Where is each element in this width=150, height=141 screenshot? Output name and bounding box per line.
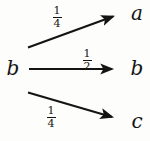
arrow-b-to-a	[28, 17, 113, 48]
target-node-label-c: c	[127, 111, 147, 131]
transition-diagram-figure: b a b c 1 4 1 2 1 4	[0, 0, 150, 141]
target-node-label-a: a	[127, 3, 147, 23]
transition-weight-c: 1 4	[38, 105, 64, 129]
fraction-denominator: 2	[82, 61, 93, 72]
fraction-one-quarter-bottom: 1 4	[46, 105, 57, 129]
source-node-label: b	[3, 58, 23, 78]
fraction-denominator: 4	[46, 118, 57, 129]
target-node-label-b: b	[127, 58, 147, 78]
fraction-one-half: 1 2	[82, 48, 93, 72]
transition-weight-b: 1 2	[74, 48, 100, 72]
fraction-numerator: 1	[46, 105, 57, 116]
fraction-numerator: 1	[52, 5, 63, 16]
fraction-numerator: 1	[82, 48, 93, 59]
transition-weight-a: 1 4	[44, 5, 70, 29]
fraction-denominator: 4	[52, 18, 63, 29]
fraction-one-quarter-top: 1 4	[52, 5, 63, 29]
